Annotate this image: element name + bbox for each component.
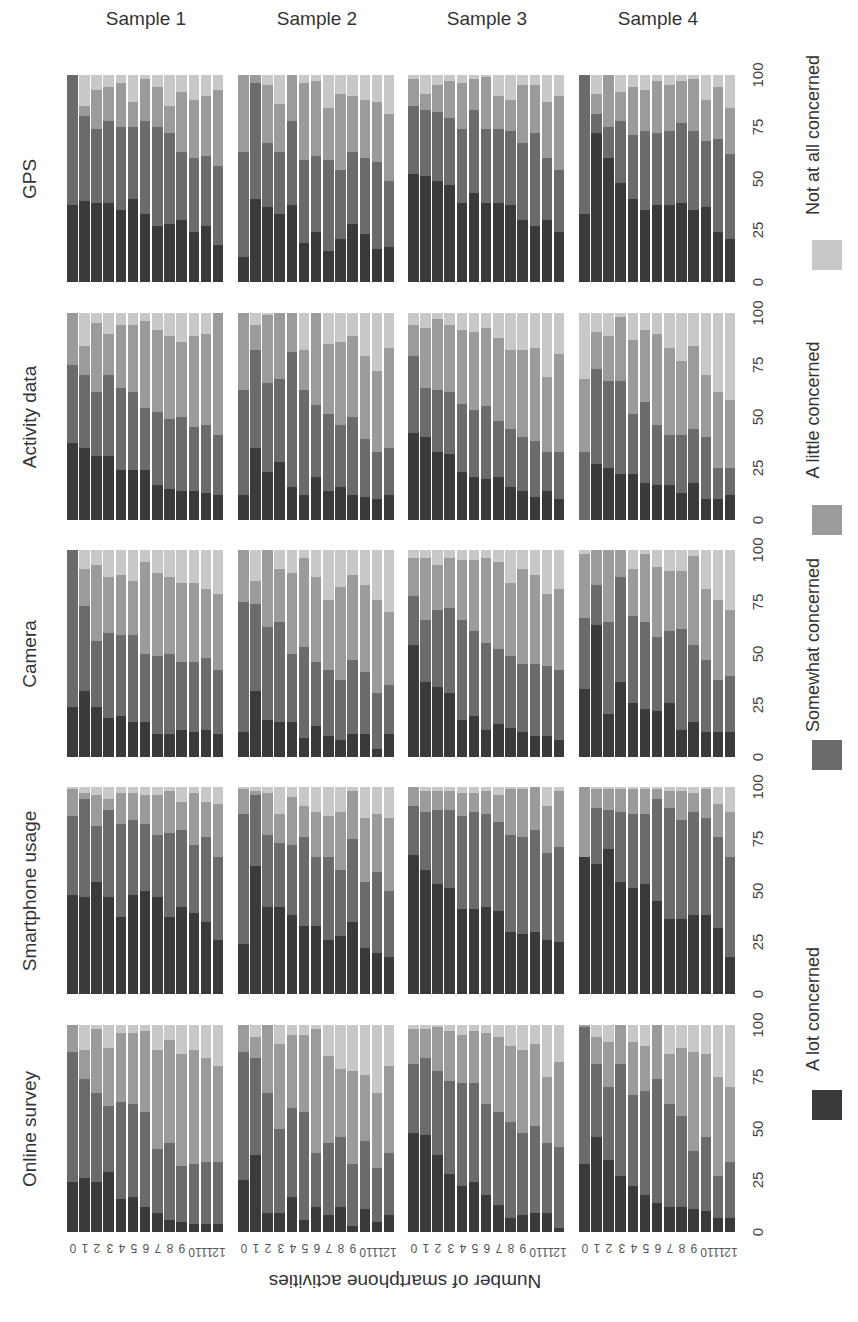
segment-a-little-concerned — [372, 371, 383, 452]
segment-somewhat-concerned — [287, 352, 298, 487]
bar-activities-6 — [652, 313, 663, 520]
segment-a-little-concerned — [360, 1075, 371, 1141]
segment-a-lot-concerned — [591, 464, 602, 520]
segment-a-little-concerned — [213, 1066, 224, 1161]
segment-somewhat-concerned — [664, 131, 675, 206]
bar-activities-2 — [262, 313, 273, 520]
segment-not-at-all-concerned — [128, 550, 139, 581]
segment-somewhat-concerned — [676, 1116, 687, 1207]
segment-somewhat-concerned — [274, 1129, 285, 1214]
segment-a-little-concerned — [287, 797, 298, 845]
segment-not-at-all-concerned — [79, 75, 90, 106]
bar-activities-4 — [628, 75, 639, 282]
segment-a-little-concerned — [469, 560, 480, 630]
bar-activities-12 — [554, 75, 565, 282]
segment-a-little-concerned — [688, 556, 699, 645]
panel-gps-sample-3 — [408, 75, 566, 282]
bar-activities-3 — [103, 550, 114, 757]
segment-a-lot-concerned — [323, 736, 334, 757]
x-tick-label: 6 — [652, 1242, 664, 1254]
panel-camera-sample-4 — [579, 550, 737, 757]
bar-activities-12 — [554, 1025, 565, 1232]
segment-not-at-all-concerned — [128, 75, 139, 102]
bar-activities-0 — [238, 313, 249, 520]
segment-somewhat-concerned — [176, 417, 187, 492]
segment-a-little-concerned — [530, 787, 541, 830]
bar-activities-3 — [615, 75, 626, 282]
segment-a-little-concerned — [493, 562, 504, 649]
row-title-online-survey: Online survey — [0, 1025, 60, 1232]
segment-a-lot-concerned — [554, 942, 565, 994]
row-title-label: GPS — [19, 158, 41, 198]
segment-somewhat-concerned — [652, 133, 663, 205]
segment-not-at-all-concerned — [176, 787, 187, 801]
segment-a-little-concerned — [189, 336, 200, 427]
segment-a-little-concerned — [274, 569, 285, 623]
segment-not-at-all-concerned — [481, 313, 492, 327]
segment-a-little-concerned — [152, 1050, 163, 1149]
segment-somewhat-concerned — [408, 596, 419, 646]
x-tick-label: 0 — [408, 1242, 420, 1254]
segment-not-at-all-concerned — [299, 1025, 310, 1035]
segment-a-little-concerned — [469, 332, 480, 411]
segment-a-little-concerned — [262, 793, 273, 834]
segment-a-lot-concerned — [444, 888, 455, 994]
bar-activities-12 — [213, 787, 224, 994]
bar-activities-6 — [481, 550, 492, 757]
segment-a-little-concerned — [432, 319, 443, 389]
segment-somewhat-concerned — [140, 408, 151, 470]
segment-a-little-concerned — [311, 81, 322, 156]
segment-a-little-concerned — [140, 321, 151, 408]
segment-a-little-concerned — [323, 108, 334, 160]
segment-somewhat-concerned — [384, 1153, 395, 1215]
segment-somewhat-concerned — [652, 1079, 663, 1203]
segment-a-lot-concerned — [262, 720, 273, 757]
segment-somewhat-concerned — [189, 1164, 200, 1224]
segment-not-at-all-concerned — [152, 550, 163, 573]
segment-a-lot-concerned — [432, 1155, 443, 1232]
segment-somewhat-concerned — [128, 127, 139, 199]
x-tick-text: 9 — [520, 1241, 527, 1255]
segment-a-little-concerned — [444, 325, 455, 391]
segment-a-lot-concerned — [176, 730, 187, 757]
segment-not-at-all-concerned — [542, 313, 553, 377]
segment-a-little-concerned — [652, 1025, 663, 1079]
segment-a-little-concerned — [128, 102, 139, 127]
segment-a-lot-concerned — [505, 205, 516, 282]
x-tick-label: 12 — [725, 1242, 737, 1262]
bar-activities-12 — [213, 313, 224, 520]
segment-somewhat-concerned — [347, 152, 358, 224]
segment-a-lot-concerned — [287, 205, 298, 282]
bar-activities-10 — [530, 313, 541, 520]
bar-activities-9 — [517, 1025, 528, 1232]
segment-somewhat-concerned — [688, 429, 699, 483]
segment-somewhat-concerned — [542, 1143, 553, 1213]
segment-a-lot-concerned — [238, 257, 249, 282]
segment-somewhat-concerned — [67, 365, 78, 444]
segment-a-little-concerned — [615, 550, 626, 577]
segment-not-at-all-concerned — [713, 550, 724, 600]
x-tick-text: 4 — [289, 1241, 296, 1255]
segment-a-little-concerned — [116, 575, 127, 635]
segment-somewhat-concerned — [79, 116, 90, 201]
segment-a-lot-concerned — [542, 220, 553, 282]
segment-somewhat-concerned — [250, 83, 261, 199]
segment-not-at-all-concerned — [640, 313, 651, 330]
segment-somewhat-concerned — [469, 631, 480, 716]
segment-a-lot-concerned — [701, 207, 712, 282]
bar-activities-10 — [701, 550, 712, 757]
segment-a-little-concerned — [640, 1046, 651, 1092]
bar-activities-4 — [457, 75, 468, 282]
segment-a-lot-concerned — [67, 443, 78, 520]
segment-somewhat-concerned — [615, 1064, 626, 1176]
segment-not-at-all-concerned — [384, 75, 395, 114]
bar-activities-6 — [140, 550, 151, 757]
segment-not-at-all-concerned — [79, 313, 90, 346]
segment-a-little-concerned — [420, 1029, 431, 1058]
segment-a-lot-concerned — [128, 1197, 139, 1232]
x-tick-text: 8 — [338, 1241, 345, 1255]
segment-a-little-concerned — [79, 1050, 90, 1079]
y-tick-label: 100 — [742, 535, 772, 565]
segment-somewhat-concerned — [103, 375, 114, 456]
segment-a-little-concerned — [628, 340, 639, 415]
